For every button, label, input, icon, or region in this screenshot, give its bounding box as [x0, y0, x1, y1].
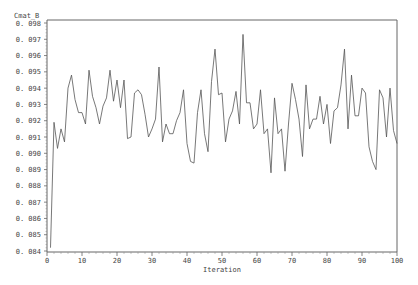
y-tick-label: 0. 087 [16, 199, 41, 207]
y-axis-title: Cmat_B [14, 12, 39, 20]
x-axis-ticks: 0102030405060708090100 [45, 252, 403, 265]
data-series-line [51, 34, 398, 247]
x-tick-label: 70 [288, 257, 296, 265]
y-tick-label: 0. 091 [16, 134, 41, 142]
x-tick-label: 60 [253, 257, 261, 265]
x-tick-label: 20 [113, 257, 121, 265]
y-tick-label: 0. 093 [16, 101, 41, 109]
x-tick-label: 40 [183, 257, 191, 265]
y-tick-label: 0. 085 [16, 231, 41, 239]
y-tick-label: 0. 086 [16, 215, 41, 223]
y-tick-label: 0. 096 [16, 52, 41, 60]
y-tick-label: 0. 088 [16, 182, 41, 190]
line-chart: 0. 0840. 0850. 0860. 0870. 0880. 0890. 0… [0, 0, 418, 285]
y-tick-label: 0. 092 [16, 117, 41, 125]
x-tick-label: 10 [78, 257, 86, 265]
y-tick-label: 0. 098 [16, 20, 41, 28]
x-tick-label: 30 [148, 257, 156, 265]
x-tick-label: 80 [323, 257, 331, 265]
x-tick-label: 100 [391, 257, 404, 265]
x-tick-label: 90 [358, 257, 366, 265]
y-tick-label: 0. 095 [16, 68, 41, 76]
y-tick-label: 0. 089 [16, 166, 41, 174]
y-tick-label: 0. 097 [16, 36, 41, 44]
x-tick-label: 50 [218, 257, 226, 265]
y-tick-label: 0. 084 [16, 248, 41, 256]
y-axis-ticks: 0. 0840. 0850. 0860. 0870. 0880. 0890. 0… [16, 20, 47, 256]
x-tick-label: 0 [45, 257, 49, 265]
y-tick-label: 0. 094 [16, 85, 41, 93]
x-axis-title: Iteration [203, 266, 241, 274]
y-tick-label: 0. 090 [16, 150, 41, 158]
